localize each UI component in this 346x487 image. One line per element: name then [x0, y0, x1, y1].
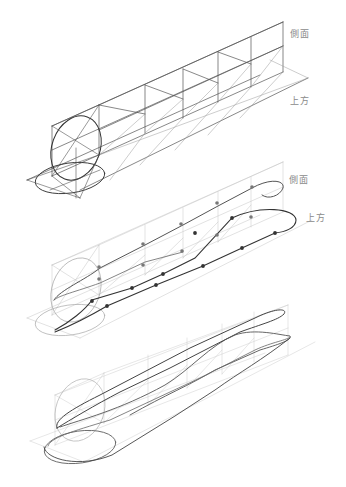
panel-3-final-form [30, 305, 315, 468]
top-points [90, 216, 277, 308]
panel-1-box-framework [27, 22, 308, 198]
panel-2-top-label: 上方 [306, 211, 325, 224]
panel-2-contour-points [27, 162, 312, 340]
panel-2-side-label: 側面 [289, 173, 308, 186]
panel-1-side-label: 側面 [290, 27, 309, 40]
panel-1-top-label: 上方 [290, 94, 309, 107]
construction-diagram [0, 0, 346, 487]
